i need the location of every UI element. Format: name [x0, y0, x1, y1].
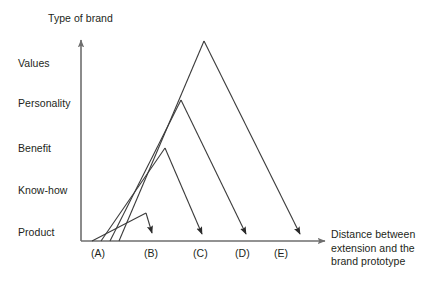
- series-personality-extension: [110, 100, 246, 241]
- series-values-fall: [204, 41, 300, 234]
- series-values-extension: [119, 41, 300, 241]
- x-tick-label-a: (A): [91, 247, 105, 259]
- series-values-rise: [119, 41, 204, 241]
- series-benefit-fall: [165, 148, 202, 234]
- x-axis-title: Distance between extension and the brand…: [331, 228, 439, 269]
- y-tick-label-know-how: Know-how: [18, 184, 67, 196]
- x-tick-label-d: (D): [235, 247, 250, 259]
- series-product-rise: [92, 213, 146, 241]
- y-axis-title: Type of brand: [48, 12, 113, 24]
- series-benefit-rise: [101, 148, 165, 241]
- y-tick-label-personality: Personality: [18, 97, 71, 109]
- series-personality-fall: [181, 100, 246, 234]
- y-tick-label-benefit: Benefit: [18, 142, 51, 154]
- y-tick-label-values: Values: [18, 57, 50, 69]
- series-benefit-extension: [101, 148, 202, 241]
- y-tick-label-product: Product: [18, 226, 55, 238]
- x-tick-label-c: (C): [193, 247, 208, 259]
- x-tick-label-b: (B): [144, 247, 158, 259]
- diagram-root: Type of brand Values Personality Benefit…: [0, 0, 442, 282]
- series-personality-rise: [110, 100, 181, 241]
- series-product-fall: [146, 213, 152, 233]
- x-tick-label-e: (E): [274, 247, 288, 259]
